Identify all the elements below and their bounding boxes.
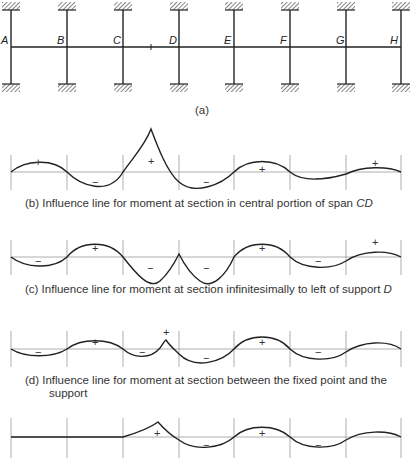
sign: − <box>147 262 153 274</box>
sign: − <box>35 346 41 358</box>
sign: + <box>92 242 98 254</box>
joint-label-f: F <box>280 34 287 46</box>
caption-c: (c) Influence line for moment at section… <box>25 283 392 296</box>
joint-label-c: C <box>113 34 121 46</box>
sign: − <box>203 352 209 364</box>
joint-label-b: B <box>57 34 64 46</box>
sign: + <box>259 336 265 348</box>
sign: − <box>139 346 145 358</box>
caption-a: (a) <box>195 104 209 117</box>
sign: − <box>315 346 321 358</box>
influence-line-e <box>11 418 401 458</box>
sign: + <box>259 242 265 254</box>
sign: + <box>259 427 265 439</box>
sign: + <box>372 236 378 248</box>
caption-b: (b) Influence line for moment at section… <box>25 197 373 210</box>
sign: − <box>203 176 209 188</box>
caption-d: (d) Influence line for moment at section… <box>25 374 405 400</box>
sign: + <box>35 156 41 168</box>
frame-structure <box>11 10 401 84</box>
sign: + <box>259 163 265 175</box>
sign: + <box>148 155 154 167</box>
sign: − <box>315 439 321 451</box>
joint-label-a: A <box>1 34 8 46</box>
sign: − <box>315 255 321 267</box>
joint-label-h: H <box>390 34 398 46</box>
sign: − <box>203 439 209 451</box>
sign: − <box>35 255 41 267</box>
sign: + <box>372 157 378 169</box>
sign: + <box>163 326 169 338</box>
sign: + <box>92 336 98 348</box>
joint-label-g: G <box>336 34 345 46</box>
sign: − <box>315 172 321 184</box>
sign: − <box>92 176 98 188</box>
sign: + <box>154 427 160 439</box>
joint-label-d: D <box>169 34 177 46</box>
sign: − <box>203 262 209 274</box>
joint-label-e: E <box>224 34 231 46</box>
